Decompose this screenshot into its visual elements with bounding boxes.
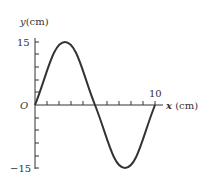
- y-tick-label-top: 15: [17, 37, 30, 48]
- x-axis-label: x (cm): [165, 100, 198, 111]
- x-axis-ticks: [47, 101, 155, 105]
- y-axis-label: y(cm): [19, 16, 49, 27]
- y-tick-label-bottom: −15: [10, 163, 31, 174]
- chart-canvas: y(cm) 15 −15 O 10 x (cm): [0, 0, 213, 188]
- origin-label: O: [20, 100, 28, 111]
- x-tick-label-10: 10: [149, 88, 162, 99]
